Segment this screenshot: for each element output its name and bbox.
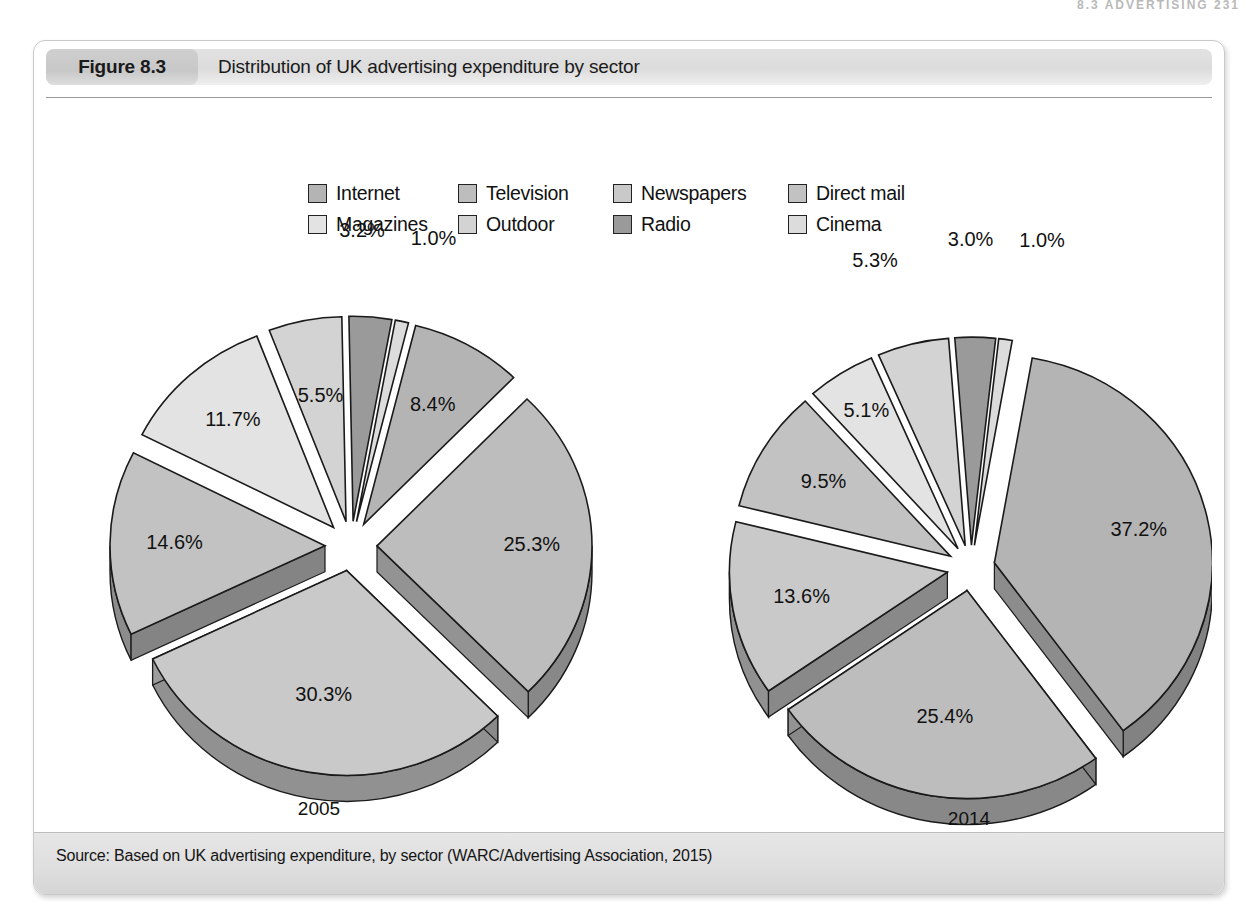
pie-slice-label: 25.3% xyxy=(503,533,560,555)
pie-2014-svg: 37.2%25.4%13.6%9.5%5.1%5.3%3.0%1.0% xyxy=(671,98,1212,818)
source-caption: Source: Based on UK advertising expendit… xyxy=(56,847,1224,865)
figure-number-badge: Figure 8.3 xyxy=(46,49,198,85)
figure-footer: Source: Based on UK advertising expendit… xyxy=(34,832,1224,894)
pie-slice-label: 1.0% xyxy=(411,227,457,249)
pie-slice-label: 5.5% xyxy=(298,384,344,406)
pie-slice-label: 1.0% xyxy=(1019,229,1065,251)
pie-slice-label: 30.3% xyxy=(295,683,352,705)
pie-2005-svg: 8.4%25.3%30.3%14.6%11.7%5.5%3.2%1.0% xyxy=(46,98,646,818)
pie-2014-caption: 2014 xyxy=(889,808,1049,830)
pie-slice-label: 11.7% xyxy=(205,408,260,430)
pie-2005-caption: 2005 xyxy=(239,798,399,820)
pie-slice-label: 9.5% xyxy=(801,470,847,492)
pie-slice-label: 5.1% xyxy=(844,399,890,421)
figure-title: Distribution of UK advertising expenditu… xyxy=(218,49,640,85)
pie-slice-label: 37.2% xyxy=(1110,518,1167,540)
pie-slice-label: 14.6% xyxy=(146,531,203,553)
pie-chart-2014: 37.2%25.4%13.6%9.5%5.1%5.3%3.0%1.0% 2014 xyxy=(671,98,1212,818)
running-head: 8.3 ADVERTISING 231 xyxy=(1077,0,1240,14)
pie-chart-2005: 8.4%25.3%30.3%14.6%11.7%5.5%3.2%1.0% 200… xyxy=(46,98,646,818)
pie-slice-label: 13.6% xyxy=(773,585,830,607)
pie-slice-label: 8.4% xyxy=(410,393,456,415)
pie-slice-label: 3.0% xyxy=(948,228,994,250)
pie-slice-label: 25.4% xyxy=(916,705,973,727)
pie-slice-label: 5.3% xyxy=(852,249,898,271)
figure-header: Figure 8.3 Distribution of UK advertisin… xyxy=(34,41,1224,93)
chart-plot-area: InternetTelevisionNewspapersDirect mailM… xyxy=(46,98,1212,832)
figure-header-bar: Figure 8.3 Distribution of UK advertisin… xyxy=(46,49,1212,85)
pie-slice-label: 3.2% xyxy=(339,219,385,241)
figure-card: Figure 8.3 Distribution of UK advertisin… xyxy=(33,40,1225,895)
